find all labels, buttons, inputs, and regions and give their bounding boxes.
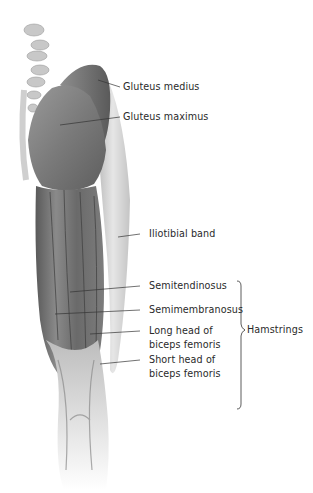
label-gluteus-maximus: Gluteus maximus xyxy=(123,110,208,124)
label-short-head-biceps-femoris: Short head of biceps femoris xyxy=(149,353,229,381)
label-semitendinosus: Semitendinosus xyxy=(149,279,227,293)
label-gluteus-medius: Gluteus medius xyxy=(123,80,199,94)
label-long-head-biceps-femoris: Long head of biceps femoris xyxy=(149,324,229,352)
label-iliotibial-band: Iliotibial band xyxy=(149,227,215,241)
label-hamstrings-group: Hamstrings xyxy=(247,323,303,337)
anatomy-illustration xyxy=(0,0,313,493)
hamstrings-bracket xyxy=(237,281,245,409)
label-semimembranosus: Semimembranosus xyxy=(149,303,243,317)
